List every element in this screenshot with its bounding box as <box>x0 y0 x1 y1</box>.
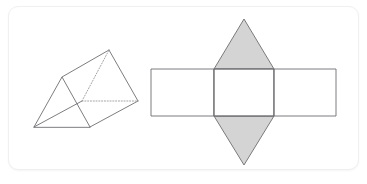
net-middle-rectangle-face <box>214 69 274 116</box>
net-right-rectangle-face <box>274 69 336 116</box>
net-top-triangle-face <box>214 19 274 69</box>
prism-front-triangle-edge <box>34 77 90 127</box>
triangular-prism-net <box>151 19 336 165</box>
net-bottom-triangle-face <box>214 116 274 165</box>
prism-bottom-right-edge <box>90 101 138 127</box>
net-left-rectangle-face <box>151 69 214 116</box>
geometry-figure <box>0 0 367 184</box>
triangular-prism-3d <box>34 50 138 127</box>
prism-back-right-slant-edge <box>109 50 138 101</box>
